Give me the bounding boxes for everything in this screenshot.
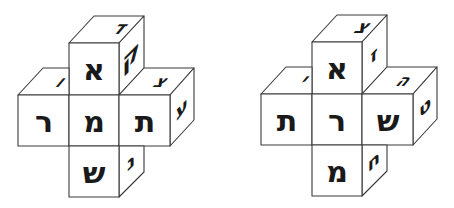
right-cluster: א צ ז ת י ר ש ה ט מ ח bbox=[261, 15, 437, 196]
right-left-front-letter: ת bbox=[277, 103, 298, 138]
right-right-front-letter: ש bbox=[377, 103, 400, 138]
left-top-front-letter: א bbox=[83, 52, 105, 87]
left-center-front-letter: מ bbox=[83, 104, 105, 139]
right-top-front-letter: א bbox=[326, 51, 348, 86]
right-bottom-front-letter: מ bbox=[326, 154, 348, 189]
left-right-front-letter: ת bbox=[135, 104, 156, 139]
left-bottom-front-letter: ש bbox=[83, 155, 106, 190]
left-cluster: א ד ק ר ו מ ת צ ע ש נ bbox=[18, 16, 194, 197]
right-center-front-letter: ר bbox=[328, 103, 346, 138]
left-left-front-letter: ר bbox=[35, 104, 53, 139]
cube-diagram: א ד ק ר ו מ ת צ ע ש נ א צ ז ת י ר ש ה ט … bbox=[0, 0, 454, 208]
